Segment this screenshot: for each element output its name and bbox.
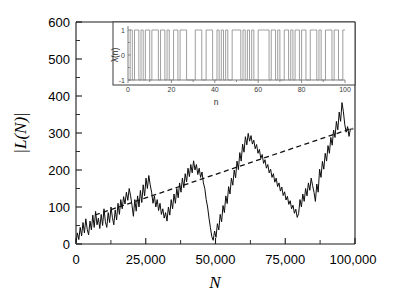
x-axis-title: N (208, 273, 222, 292)
inset-x-tick-label-0: 0 (126, 86, 130, 93)
x-tick-label-100000: 100,000 (330, 252, 377, 267)
inset-x-axis-title: n (214, 97, 219, 107)
inset-y-tick-label-1: 1 (121, 27, 125, 34)
chart-svg: 0 100 200 300 400 500 600 |L(N)| 0 25,00… (0, 0, 393, 305)
x-tick-label-0: 0 (72, 252, 79, 267)
x-tick-label-75000: 75,000 (265, 252, 305, 267)
figure-container: 0 100 200 300 400 500 600 |L(N)| 0 25,00… (0, 0, 393, 305)
inset-y-axis-title: λ(n) (110, 48, 120, 63)
y-tick-label-0: 0 (63, 237, 70, 252)
y-tick-label-600: 600 (48, 15, 70, 30)
y-tick-label-200: 200 (48, 163, 70, 178)
y-axis-title: |L(N)| (11, 112, 30, 153)
inset-x-tick-label-20: 20 (168, 86, 176, 93)
y-tick-label-400: 400 (48, 89, 70, 104)
y-tick-label-300: 300 (48, 126, 70, 141)
y-tick-label-100: 100 (48, 200, 70, 215)
x-tick-label-50000: 50,000 (196, 252, 236, 267)
inset-x-tick-label-100: 100 (339, 86, 351, 93)
inset-x-tick-label-60: 60 (254, 86, 262, 93)
inset-x-tick-label-80: 80 (298, 86, 306, 93)
y-tick-label-500: 500 (48, 52, 70, 67)
inset-x-tick-label-40: 40 (211, 86, 219, 93)
inset-y-tick-label-minus1: -1 (119, 77, 125, 84)
x-tick-label-25000: 25,000 (126, 252, 166, 267)
inset-y-tick-label-0: 0 (121, 52, 125, 59)
